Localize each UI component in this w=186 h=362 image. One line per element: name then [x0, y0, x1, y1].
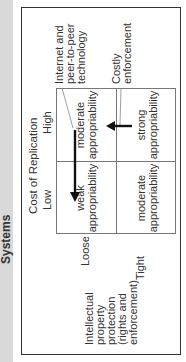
appropriability-diagram: Systems Cost of Replication Low High wea…	[0, 0, 186, 362]
internet-leader-line	[62, 88, 73, 128]
costly-leader-line	[120, 88, 121, 125]
arrow-up-icon	[106, 121, 115, 131]
arrow-left-icon	[70, 192, 80, 202]
arrows-overlay	[0, 0, 186, 362]
